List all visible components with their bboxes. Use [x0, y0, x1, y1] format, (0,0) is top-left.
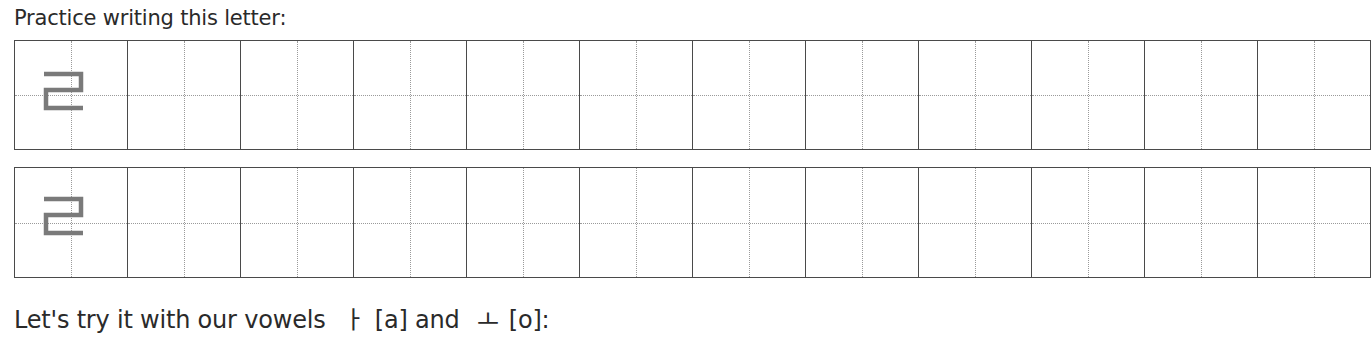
practice-cell[interactable]: [693, 168, 806, 277]
rieul-letter-icon: [41, 71, 85, 115]
practice-cell[interactable]: [806, 41, 919, 149]
conjunction: and: [415, 306, 460, 334]
practice-cell[interactable]: [1258, 41, 1371, 149]
practice-cell[interactable]: [1032, 41, 1145, 149]
vowel-o-roman: [o]:: [509, 306, 550, 334]
vowel-o-glyph: ㅗ: [477, 300, 499, 335]
vowel-a-roman: [a]: [375, 306, 408, 334]
practice-cell[interactable]: [241, 41, 354, 149]
practice-cell[interactable]: [128, 41, 241, 149]
practice-cell[interactable]: [1032, 168, 1145, 277]
practice-row-1: [14, 40, 1371, 150]
practice-cell[interactable]: [580, 41, 693, 149]
practice-cell[interactable]: [241, 168, 354, 277]
model-cell: [15, 168, 128, 277]
vowel-instruction-prefix: Let's try it with our vowels: [14, 306, 325, 334]
practice-cell[interactable]: [693, 41, 806, 149]
rieul-letter-icon: [41, 196, 85, 240]
instruction-heading: Practice writing this letter:: [14, 6, 286, 30]
model-cell: [15, 41, 128, 149]
practice-cell[interactable]: [1145, 41, 1258, 149]
practice-cell[interactable]: [919, 168, 1032, 277]
practice-cell[interactable]: [467, 41, 580, 149]
practice-cell[interactable]: [467, 168, 580, 277]
practice-cell[interactable]: [354, 41, 467, 149]
vowel-a-glyph: ㅏ: [343, 300, 365, 335]
practice-cell[interactable]: [806, 168, 919, 277]
practice-cell[interactable]: [580, 168, 693, 277]
practice-cell[interactable]: [1258, 168, 1371, 277]
vowel-instruction: Let's try it with our vowels ㅏ[a] and ㅗ[…: [14, 300, 550, 335]
practice-cell[interactable]: [919, 41, 1032, 149]
practice-cell[interactable]: [1145, 168, 1258, 277]
practice-cell[interactable]: [128, 168, 241, 277]
practice-cell[interactable]: [354, 168, 467, 277]
practice-row-2: [14, 167, 1371, 278]
